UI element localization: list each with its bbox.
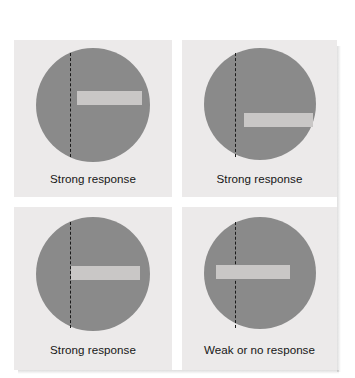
stimulus-panel-top-right: Strong response [182, 40, 337, 197]
figure-edge-shadow-right [337, 46, 341, 372]
stimulus-bar [244, 113, 313, 127]
stimulus-area-top-right [182, 40, 337, 168]
midline-dashed [70, 53, 71, 157]
stimulus-panel-bottom-right: Weak or no response [182, 207, 337, 370]
panel-caption-bottom-right: Weak or no response [182, 343, 337, 356]
stimulus-bar [77, 91, 142, 105]
stimulus-bar [71, 266, 140, 280]
receptive-field-circle [36, 48, 150, 162]
stimulus-panel-top-left: Strong response [14, 40, 172, 197]
receptive-field-circle [204, 48, 316, 160]
figure-edge-shadow-bottom [18, 370, 339, 374]
stimulus-figure: Strong response Strong response Strong r… [14, 40, 337, 370]
midline-dashed [235, 53, 236, 157]
stimulus-panel-bottom-left: Strong response [14, 207, 172, 370]
stimulus-bar [216, 265, 290, 279]
panel-caption-top-left: Strong response [14, 172, 172, 185]
stimulus-area-bottom-right [182, 207, 337, 339]
stimulus-area-bottom-left [14, 207, 172, 339]
panel-caption-bottom-left: Strong response [14, 343, 172, 356]
stimulus-area-top-left [14, 40, 172, 168]
panel-caption-top-right: Strong response [182, 172, 337, 185]
